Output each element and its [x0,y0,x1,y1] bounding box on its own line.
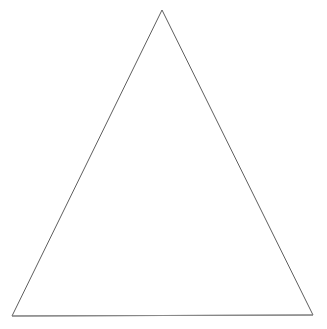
triangle-figure [0,0,327,329]
canvas-background [0,0,327,329]
drawing-canvas [0,0,327,329]
